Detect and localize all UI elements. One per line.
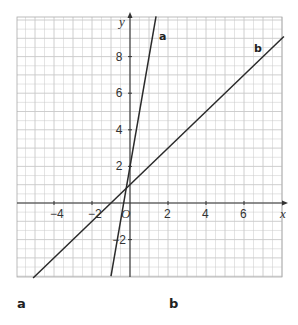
axes (17, 12, 288, 277)
x-tick-label: O (121, 206, 131, 221)
line-a-label: a (159, 30, 166, 43)
line-graph: ab −4−2O246−22468xy (0, 0, 298, 290)
x-axis-name: x (279, 206, 286, 221)
y-axis-name: y (117, 14, 125, 29)
x-tick-label: 4 (202, 207, 209, 221)
part-b-label: b (169, 296, 178, 311)
y-tick-label: −2 (112, 233, 126, 247)
x-tick-label: −4 (50, 207, 64, 221)
line-b-label: b (254, 42, 262, 55)
y-tick-label: 4 (116, 123, 123, 137)
x-tick-label: 6 (240, 207, 247, 221)
x-tick-label: −2 (88, 207, 102, 221)
x-tick-label: 2 (164, 207, 171, 221)
part-a-label: a (17, 296, 26, 311)
x-axis-arrow-icon (282, 201, 288, 206)
y-axis-arrow-icon (128, 12, 133, 18)
y-tick-label: 6 (116, 86, 123, 100)
y-tick-label: 2 (116, 159, 123, 173)
y-tick-label: 8 (116, 50, 123, 64)
